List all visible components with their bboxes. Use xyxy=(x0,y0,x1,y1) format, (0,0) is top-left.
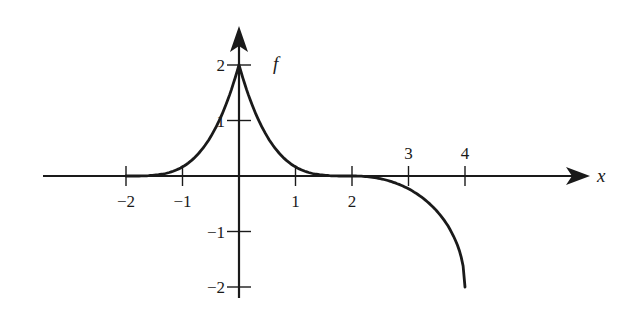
x-tick-label: 2 xyxy=(348,192,357,211)
function-graph: x f −2−1123421−1−2 xyxy=(0,0,637,313)
y-axis-label: f xyxy=(273,53,281,74)
x-tick-label: 3 xyxy=(404,144,413,163)
x-tick-label: 4 xyxy=(461,144,470,163)
x-tick-label: 1 xyxy=(291,192,300,211)
y-tick-label: 2 xyxy=(217,56,226,75)
x-axis-label: x xyxy=(596,165,606,186)
x-tick-label: −1 xyxy=(173,192,191,211)
x-tick-label: −2 xyxy=(117,192,135,211)
y-tick-label: −1 xyxy=(207,223,225,242)
y-tick-label: −2 xyxy=(207,278,225,297)
axes: x f xyxy=(43,26,606,298)
